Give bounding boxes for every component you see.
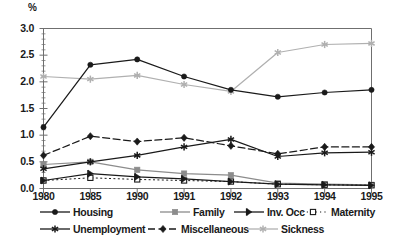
data-point-marker [135,167,140,172]
legend-item-family[interactable]: Family [158,205,224,219]
data-point-marker [41,125,46,130]
data-point-marker [160,225,166,232]
legend-swatch-open-square-icon [296,206,330,218]
legend-label: Housing [73,206,113,218]
data-point-marker [369,87,374,92]
data-point-marker [368,143,374,150]
data-point-marker [228,142,234,149]
data-point-marker [172,209,177,214]
legend-label: Maternity [331,206,375,218]
legend-swatch-filled-square-icon [158,206,192,218]
data-point-marker [181,74,186,79]
legend-swatch-asterisk-icon [246,223,280,235]
legend-item-maternity[interactable]: Maternity [296,205,375,219]
data-point-marker [181,134,187,141]
data-point-marker [88,62,93,67]
data-point-marker [40,152,46,159]
data-point-marker [310,209,315,214]
data-point-marker [52,209,57,214]
legend-label: Family [193,206,224,218]
legend-label: Unemployment [73,223,145,235]
series-housing [41,57,374,130]
data-point-marker [135,57,140,62]
legend-swatch-filled-circle-icon [38,206,72,218]
legend-item-housing[interactable]: Housing [38,205,113,219]
data-point-marker [322,143,328,150]
data-point-marker [322,90,327,95]
chart-legend: HousingFamilyInv. OccMaternityUnemployme… [0,205,402,241]
line-chart: % 3.02.52.01.51.00.50.0 1980198519901991… [0,0,402,242]
data-point-marker [87,133,93,140]
legend-item-miscellaneous[interactable]: Miscellaneous [146,222,249,236]
legend-swatch-filled-diamond-icon [146,223,180,235]
data-point-marker [228,172,233,177]
data-point-marker [134,138,140,145]
data-point-marker [275,94,280,99]
legend-label: Miscellaneous [181,223,249,235]
series-line [44,43,372,91]
legend-item-inv-occ[interactable]: Inv. Occ [232,205,305,219]
legend-label: Sickness [281,223,324,235]
legend-swatch-asterisk-icon [38,223,72,235]
data-point-marker [228,87,233,92]
legend-swatch-half-arrow-icon [232,206,266,218]
data-point-marker [247,209,252,216]
legend-item-unemployment[interactable]: Unemployment [38,222,145,236]
legend-item-sickness[interactable]: Sickness [246,222,324,236]
